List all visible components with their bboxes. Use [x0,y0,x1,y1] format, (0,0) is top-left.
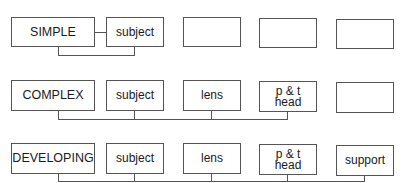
row-simple-slot-1-label: subject [116,27,154,38]
row-developing-label: DEVELOPING [12,153,93,164]
row-simple-slot-1: subject [106,17,164,47]
row-developing-label-box: DEVELOPING [11,143,95,174]
diagram: SIMPLE subject COMPLEX subject lens p & … [0,0,407,183]
row-simple-slot-2 [183,17,241,47]
row-complex-slot-1: subject [106,80,164,111]
row-developing-slot-2-label: lens [201,153,223,164]
row-complex-slot-2-label: lens [201,90,223,101]
row-simple-drop-2 [134,47,135,55]
row-complex-slot-3: p & t head [259,81,317,112]
row-developing-drop-1 [58,174,59,181]
row-complex-drop-3 [211,111,212,119]
row-complex-slot-3-label: p & t head [275,86,302,108]
row-developing-slot-1: subject [106,143,164,174]
row-complex-drop-2 [134,111,135,119]
row-complex-drop-1 [58,111,59,119]
row-complex-bus [58,119,288,120]
row-developing-slot-3: p & t head [259,144,317,175]
row-simple-label: SIMPLE [30,27,76,38]
row-complex-drop-4 [287,112,288,119]
row-developing-slot-1-label: subject [116,153,154,164]
row-developing-slot-2: lens [183,143,241,174]
row-complex-slot-1-label: subject [116,90,154,101]
row-developing-slot-4-label: support [345,155,385,166]
row-complex-slot-2: lens [183,80,241,111]
row-developing-drop-2 [134,174,135,181]
row-complex-label: COMPLEX [22,90,83,101]
row-complex-slot-4 [336,82,394,113]
row-simple-slot-4 [336,19,394,49]
row-developing-drop-3 [211,174,212,181]
row-developing-slot-4: support [336,145,394,176]
row-simple-bus [58,55,135,56]
row-developing-slot-3-label: p & t head [275,149,302,171]
row-complex-label-box: COMPLEX [11,80,95,111]
row-simple-side-connector [95,32,106,33]
row-simple-slot-3 [259,18,317,48]
row-simple-label-box: SIMPLE [11,17,95,47]
row-simple-drop-1 [58,47,59,55]
row-developing-bus [58,181,365,182]
